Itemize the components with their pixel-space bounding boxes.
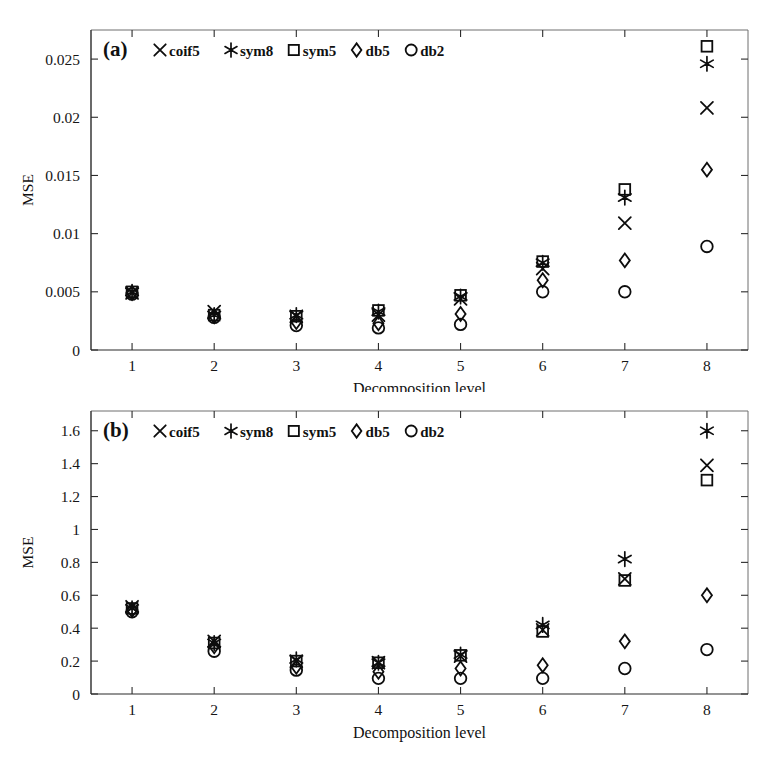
data-point-sym5-level8 [702,41,713,52]
y-tick-label: 0.015 [45,167,80,184]
x-tick-label: 5 [457,701,465,718]
panel-b: 00.20.40.60.811.21.41.612345678Decomposi… [0,391,783,783]
plot-frame [91,411,748,694]
data-point-db5-level7 [620,634,630,648]
legend-label-sym8: sym8 [240,424,273,440]
legend-label-sym5: sym5 [303,424,336,440]
y-tick-label: 0.2 [61,653,80,670]
y-tick-label: 0.8 [61,554,81,571]
x-tick-label: 3 [292,701,300,718]
y-tick-label: 1.4 [61,455,81,472]
legend-marker-db2 [406,425,417,436]
legend-label-db5: db5 [366,43,390,59]
scatter-plot-b: 00.20.40.60.811.21.41.612345678Decomposi… [0,391,783,783]
figure-container: 00.0050.010.0150.020.02512345678Decompos… [0,0,783,783]
data-point-sym8-level8 [701,57,714,71]
data-point-db2-level8 [701,241,713,253]
x-axis-title: Decomposition level [353,724,486,742]
legend-label-sym5: sym5 [303,43,336,59]
panel-a: 00.0050.010.0150.020.02512345678Decompos… [0,0,783,392]
data-point-db5-level8 [702,163,712,177]
x-tick-label: 1 [128,701,136,718]
legend-marker-sym8 [225,424,237,438]
y-tick-label: 0.02 [53,109,80,126]
legend-marker-db5 [352,424,362,437]
legend-marker-sym5 [289,426,299,436]
y-tick-label: 0.01 [53,225,80,242]
x-tick-label: 6 [539,701,547,718]
data-point-db2-level4 [373,322,385,334]
y-tick-label: 0.025 [45,51,80,68]
x-tick-label: 8 [703,701,711,718]
x-tick-label: 3 [292,357,300,374]
data-point-coif5-level8 [701,102,713,114]
plot-frame [91,30,748,350]
data-point-sym5-level8 [702,475,713,486]
data-point-sym8-level7 [619,190,632,204]
x-tick-label: 6 [539,357,547,374]
y-axis-title: MSE [19,537,36,569]
y-tick-label: 1 [72,521,80,538]
legend-marker-sym8 [225,43,237,57]
legend-label-db2: db2 [420,43,444,59]
data-point-db5-level7 [620,253,630,267]
x-tick-label: 5 [457,357,465,374]
legend-label-coif5: coif5 [169,43,200,59]
legend-marker-coif5 [154,44,165,55]
data-point-db2-level8 [701,644,713,656]
panel-tag: (b) [103,418,129,442]
y-tick-label: 0 [72,342,80,359]
x-tick-label: 7 [621,701,629,718]
x-tick-label: 4 [375,357,383,374]
panel-tag: (a) [103,37,128,61]
y-tick-label: 0.4 [61,620,81,637]
legend-marker-db2 [406,44,417,55]
legend-marker-coif5 [154,425,165,436]
legend-label-db5: db5 [366,424,390,440]
legend-label-db2: db2 [420,424,444,440]
data-point-sym8-level7 [619,552,632,566]
data-point-db2-level6 [537,673,549,685]
y-tick-label: 0.6 [61,587,81,604]
data-point-sym8-level8 [701,423,714,437]
data-point-db5-level6 [538,658,548,672]
x-tick-label: 7 [621,357,629,374]
x-tick-label: 2 [210,701,218,718]
scatter-plot-a: 00.0050.010.0150.020.02512345678Decompos… [0,0,783,392]
x-tick-label: 8 [703,357,711,374]
legend-marker-sym5 [289,45,299,55]
data-point-coif5-level7 [619,217,631,229]
data-point-db5-level8 [702,588,712,602]
x-tick-label: 2 [210,357,218,374]
y-tick-label: 0.005 [45,283,80,300]
legend-label-sym8: sym8 [240,43,273,59]
y-tick-label: 0 [72,686,80,703]
data-point-db5-level6 [538,273,548,287]
x-tick-label: 4 [375,701,383,718]
y-axis-title: MSE [19,174,36,206]
y-tick-label: 1.6 [61,422,81,439]
data-point-coif5-level8 [701,459,713,471]
y-tick-label: 1.2 [61,488,80,505]
legend-marker-db5 [352,43,362,56]
x-tick-label: 1 [128,357,136,374]
data-point-sym5-level7 [619,575,630,586]
legend-label-coif5: coif5 [169,424,200,440]
data-point-db2-level7 [619,286,631,298]
data-point-db2-level7 [619,663,631,675]
